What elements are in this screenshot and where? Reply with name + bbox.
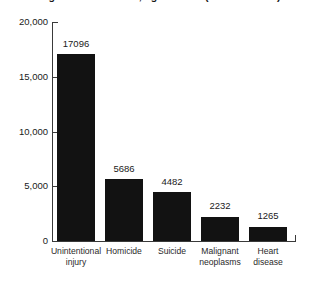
y-axis-tick-labels: 20,000 15,000 10,000 5,000 0 (0, 0, 48, 289)
bar-malignant-neoplasms[interactable] (201, 217, 239, 241)
bar-value-label: 1265 (240, 211, 296, 221)
x-axis-label-line-2: injury (44, 257, 108, 268)
x-axis-line (52, 241, 296, 242)
chart-title: Leading causes of death, ages 15–24 (Uni… (14, 0, 304, 2)
bar-value-label: 5686 (96, 164, 152, 174)
bar-value-label: 4482 (144, 177, 200, 187)
x-axis-end-tick (295, 235, 296, 242)
bar-homicide[interactable] (105, 179, 143, 241)
bar-value-label: 17096 (48, 39, 104, 49)
bar-heart-disease[interactable] (249, 227, 287, 241)
bar-chart-figure: Leading causes of death, ages 15–24 (Uni… (0, 0, 311, 289)
y-axis-label-20000: 20,000 (2, 17, 48, 27)
x-axis-label-line-1: Heart (236, 246, 300, 257)
bar-unintentional-injury[interactable] (57, 54, 95, 241)
plot-area: 17096 5686 4482 2232 1265 (52, 22, 295, 241)
x-axis-category-labels: Unintentional injury Homicide Suicide Ma… (52, 246, 295, 286)
x-axis-label-line-2: disease (236, 257, 300, 268)
bar-value-label: 2232 (192, 201, 248, 211)
x-axis-label-heart-disease: Heart disease (236, 246, 300, 267)
y-axis-label-0: 0 (2, 236, 48, 246)
y-axis-label-15000: 15,000 (2, 72, 48, 82)
y-axis-label-5000: 5,000 (2, 181, 48, 191)
y-axis-label-10000: 10,000 (2, 127, 48, 137)
bar-suicide[interactable] (153, 192, 191, 241)
